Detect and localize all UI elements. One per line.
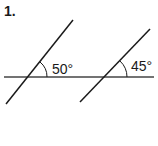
angle-label-45: 45°	[131, 58, 152, 74]
angle-diagram: 50° 45°	[0, 0, 158, 146]
angle-label-50: 50°	[52, 61, 73, 77]
angle-arc-right	[120, 61, 127, 77]
angle-arc-left	[40, 62, 47, 77]
